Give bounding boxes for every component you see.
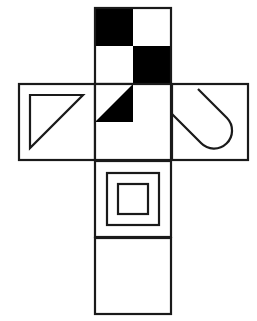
checker-quadrant-bottom-right: [133, 46, 171, 84]
hook-curve-face: [172, 84, 248, 160]
checker-quadrant-bottom-left: [95, 46, 133, 84]
blank-face-border: [95, 238, 171, 314]
checker-quadrant-top-left: [95, 8, 133, 46]
checkerboard-face: [95, 8, 171, 84]
blank-face: [95, 238, 171, 314]
black-triangle-face: [95, 84, 171, 160]
concentric-squares-face: [95, 161, 171, 237]
outlined-triangle-face: [19, 84, 95, 160]
cube-net-figure: [0, 0, 257, 321]
checker-quadrant-top-right: [133, 8, 171, 46]
